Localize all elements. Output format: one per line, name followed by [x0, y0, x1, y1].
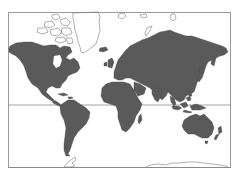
india-land [152, 88, 162, 102]
south-america-land [60, 100, 90, 156]
novaya-zemlya-outline [140, 14, 152, 36]
antarctic-peninsula-outline [64, 157, 76, 167]
world-map-canvas [0, 0, 236, 174]
madagascar-land [138, 114, 142, 124]
iceland-land [99, 47, 108, 52]
arctic-archipelago-outline [37, 14, 73, 44]
australia-land [182, 114, 214, 138]
svalbard-outline [118, 13, 126, 19]
antarctica-coast-outline [146, 162, 228, 167]
british-isles-land [104, 58, 114, 68]
greenland-outline [73, 12, 100, 53]
severnaya-zemlya-outline [170, 14, 176, 21]
kamchatka-land [211, 58, 216, 66]
north-america-land [9, 42, 80, 101]
world-map [0, 0, 236, 174]
caribbean-islands [58, 93, 73, 99]
new-zealand-land [214, 126, 222, 140]
tasmania-land [205, 141, 208, 144]
